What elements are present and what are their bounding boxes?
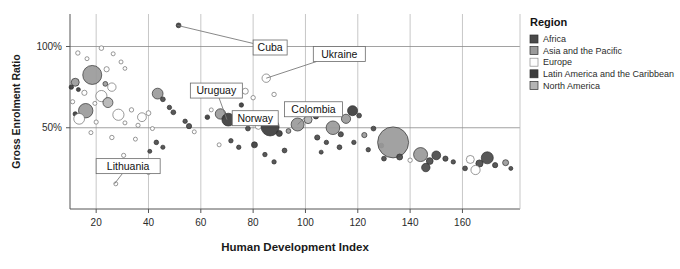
data-point-73[interactable] — [282, 148, 287, 153]
data-point-47[interactable] — [205, 115, 210, 120]
data-point-6[interactable] — [123, 67, 127, 71]
data-point-96[interactable] — [422, 163, 430, 171]
data-point-31[interactable] — [89, 131, 93, 135]
data-point-90[interactable] — [382, 156, 387, 161]
data-point-66[interactable] — [315, 135, 320, 140]
data-point-61[interactable] — [286, 129, 291, 134]
data-point-72[interactable] — [263, 152, 267, 156]
annotation-label-lithuania: Lithuania — [107, 160, 150, 172]
data-point-1[interactable] — [85, 57, 89, 61]
data-point-56[interactable] — [272, 92, 276, 96]
annotation-lithuania[interactable]: Lithuania — [96, 159, 160, 184]
data-point-34[interactable] — [167, 105, 171, 109]
data-point-81[interactable] — [337, 145, 342, 150]
x-tick-label-20: 20 — [91, 217, 103, 228]
data-point-30[interactable] — [150, 127, 154, 131]
data-point-83[interactable] — [319, 150, 323, 154]
data-point-0[interactable] — [76, 51, 80, 55]
legend-title: Region — [530, 16, 568, 28]
x-tick-label-40: 40 — [143, 217, 155, 228]
data-point-68[interactable] — [229, 139, 233, 143]
data-point-79[interactable] — [348, 106, 358, 116]
data-point-40[interactable] — [122, 153, 126, 157]
data-point-84[interactable] — [362, 132, 367, 137]
data-point-37[interactable] — [154, 140, 159, 145]
data-point-69[interactable] — [217, 143, 221, 147]
data-point-3[interactable] — [111, 52, 115, 56]
data-point-35[interactable] — [171, 110, 176, 115]
data-point-105[interactable] — [509, 166, 513, 170]
data-point-39[interactable] — [148, 149, 152, 153]
data-point-22[interactable] — [129, 108, 133, 112]
data-point-29[interactable] — [160, 97, 165, 102]
annotation-cuba[interactable]: Cuba — [177, 25, 287, 55]
data-point-8[interactable] — [103, 81, 108, 86]
data-point-89[interactable] — [397, 154, 403, 160]
data-point-98[interactable] — [466, 155, 474, 163]
legend-swatch-europe[interactable] — [530, 58, 538, 66]
data-point-76[interactable] — [326, 121, 340, 135]
data-point-12[interactable] — [82, 90, 87, 95]
data-point-10[interactable] — [69, 85, 73, 89]
data-point-100[interactable] — [481, 152, 493, 164]
data-point-94[interactable] — [432, 151, 441, 160]
legend-swatch-africa[interactable] — [530, 35, 538, 43]
data-point-97[interactable] — [451, 160, 455, 164]
data-point-13[interactable] — [108, 83, 116, 91]
data-point-48[interactable] — [209, 108, 213, 112]
data-point-23[interactable] — [94, 120, 98, 124]
data-point-16[interactable] — [93, 101, 97, 105]
data-point-52[interactable] — [242, 88, 248, 94]
data-point-82[interactable] — [352, 140, 356, 144]
data-point-54[interactable] — [239, 103, 243, 107]
data-point-88[interactable] — [378, 127, 409, 158]
data-point-91[interactable] — [408, 158, 412, 162]
legend-swatch-asia-and-the-pacific[interactable] — [530, 47, 538, 55]
data-point-85[interactable] — [371, 126, 376, 131]
x-tick-label-100: 100 — [297, 217, 314, 228]
data-point-80[interactable] — [357, 113, 362, 118]
data-point-7[interactable] — [83, 65, 102, 84]
data-point-21[interactable] — [113, 109, 124, 120]
data-point-71[interactable] — [251, 142, 257, 148]
data-point-33[interactable] — [133, 137, 137, 141]
data-point-86[interactable] — [366, 147, 370, 151]
data-point-45[interactable] — [186, 124, 191, 129]
legend-swatch-north-america[interactable] — [530, 81, 538, 89]
data-point-53[interactable] — [251, 95, 255, 99]
data-point-17[interactable] — [71, 100, 75, 104]
data-point-55[interactable] — [262, 74, 270, 82]
data-point-46[interactable] — [192, 130, 196, 134]
data-point-5[interactable] — [104, 67, 109, 72]
data-point-104[interactable] — [463, 166, 468, 171]
data-point-11[interactable] — [76, 88, 80, 92]
data-point-60[interactable] — [276, 130, 282, 136]
data-point-44[interactable] — [183, 119, 187, 123]
data-point-70[interactable] — [237, 145, 241, 149]
legend-swatch-latin-america-and-the-caribbean[interactable] — [530, 70, 538, 78]
legend-label-north-america: North America — [543, 81, 600, 91]
data-point-102[interactable] — [493, 163, 498, 168]
data-point-103[interactable] — [503, 160, 509, 166]
data-point-92[interactable] — [414, 148, 428, 162]
data-point-15[interactable] — [103, 98, 113, 108]
data-point-4[interactable] — [119, 60, 123, 64]
data-point-57[interactable] — [246, 126, 251, 131]
legend-label-africa: Africa — [543, 34, 566, 44]
data-point-101[interactable] — [471, 165, 480, 174]
data-point-26[interactable] — [146, 111, 151, 116]
data-point-32[interactable] — [110, 135, 114, 139]
data-point-24[interactable] — [123, 121, 127, 125]
annotation-norway[interactable]: Norway — [232, 111, 278, 126]
y-axis-title: Gross Enrolment Ratio — [10, 54, 22, 168]
data-point-38[interactable] — [161, 145, 165, 149]
legend-label-europe: Europe — [543, 57, 572, 67]
data-point-67[interactable] — [324, 140, 328, 144]
data-point-77[interactable] — [338, 132, 343, 137]
data-point-20[interactable] — [74, 113, 85, 124]
data-point-2[interactable] — [99, 46, 104, 51]
data-point-25[interactable] — [138, 113, 147, 122]
data-point-27[interactable] — [136, 123, 140, 127]
data-point-95[interactable] — [443, 156, 448, 161]
data-point-74[interactable] — [272, 160, 276, 164]
